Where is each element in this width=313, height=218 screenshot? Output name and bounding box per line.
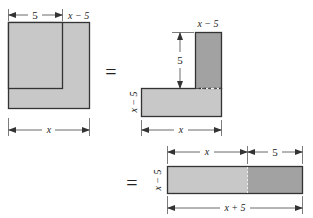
figure-2-l-shape: 5 x − 5 x − 5 x — [128, 18, 222, 136]
fig1-dim-corner: x − 5 — [67, 10, 89, 21]
dark-vertical-strip — [196, 33, 222, 89]
fig2-dim-top: x − 5 — [196, 18, 218, 29]
figure-1-square: 5 x − 5 x — [9, 9, 90, 136]
fig2-dim-side: x − 5 — [128, 91, 139, 113]
fig3-dim-top-left: x — [204, 146, 210, 157]
equals-sign-1: = — [105, 61, 116, 83]
fig2-dim-bottom: x — [178, 124, 184, 135]
factoring-diagram: 5 x − 5 x = 5 x − 5 x − 5 x = — [0, 0, 313, 218]
fig1-dim-bottom: x — [46, 124, 52, 135]
dark-part — [248, 167, 303, 194]
equals-sign-2: = — [126, 172, 137, 194]
figure-3-rectangle: x 5 x − 5 x + 5 — [152, 146, 303, 214]
light-part — [168, 167, 248, 194]
fig2-dim-vertical: 5 — [177, 54, 183, 66]
fig3-dim-top-right: 5 — [272, 146, 278, 158]
fig3-dim-side: x − 5 — [152, 169, 163, 191]
light-bottom-strip — [142, 89, 222, 117]
fig1-dim-top: 5 — [32, 9, 38, 21]
inner-square — [9, 23, 63, 89]
fig3-dim-bottom: x + 5 — [223, 202, 245, 213]
